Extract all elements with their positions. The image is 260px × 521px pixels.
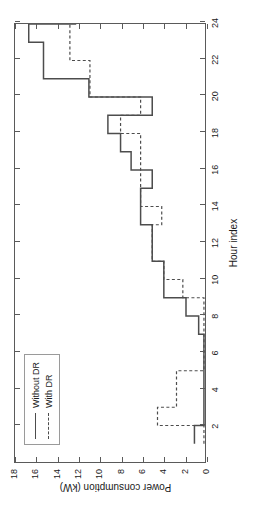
x-tick-label: 14: [210, 201, 220, 211]
y-tick-mark: [207, 24, 208, 29]
x-tick-label: 20: [210, 91, 220, 101]
x-tick-mark: [200, 204, 205, 205]
x-tick-mark: [200, 278, 205, 279]
legend-label-with-dr: With DR: [44, 375, 54, 409]
x-tick-label: 4: [210, 387, 220, 392]
legend-label-without-dr: Without DR: [31, 362, 41, 408]
x-tick-mark: [200, 388, 205, 389]
x-tick-mark: [200, 168, 205, 169]
x-tick-mark: [200, 131, 205, 132]
y-tick-mark: [186, 24, 187, 29]
y-tick-mark: [164, 457, 165, 462]
x-tick-mark: [15, 131, 20, 132]
y-tick-mark: [36, 24, 37, 29]
y-tick-mark: [79, 24, 80, 29]
y-tick-mark: [100, 457, 101, 462]
y-tick-mark: [122, 457, 123, 462]
legend-item-with-dr: With DR: [42, 362, 55, 439]
x-tick-mark: [200, 351, 205, 352]
x-tick-mark: [15, 424, 20, 425]
y-tick-mark: [122, 24, 123, 29]
series-line-with-dr: [70, 24, 204, 444]
x-tick-mark: [15, 278, 20, 279]
x-tick-mark: [200, 94, 205, 95]
chart-legend: Without DR With DR: [24, 354, 60, 445]
x-tick-mark: [200, 58, 205, 59]
x-tick-mark: [15, 21, 20, 22]
legend-swatch-dashed-icon: [48, 413, 49, 439]
y-tick-mark: [164, 24, 165, 29]
y-tick-mark: [15, 24, 16, 29]
x-tick-mark: [15, 58, 20, 59]
x-axis-title: Hour index: [228, 23, 239, 463]
figure-rotation-wrapper: 24681012141618202224024681012141618 Hour…: [0, 0, 260, 521]
x-tick-mark: [200, 424, 205, 425]
x-tick-label: 10: [210, 275, 220, 285]
x-tick-mark: [15, 204, 20, 205]
y-tick-mark: [15, 457, 16, 462]
x-tick-label: 8: [210, 314, 220, 319]
x-tick-label: 18: [210, 128, 220, 138]
x-tick-mark: [200, 314, 205, 315]
x-tick-mark: [15, 314, 20, 315]
y-tick-mark: [100, 24, 101, 29]
x-tick-mark: [15, 388, 20, 389]
y-tick-mark: [36, 457, 37, 462]
x-tick-mark: [15, 168, 20, 169]
legend-swatch-solid-icon: [35, 413, 36, 439]
y-tick-mark: [143, 457, 144, 462]
x-tick-mark: [200, 21, 205, 22]
y-tick-label: 18: [9, 469, 19, 491]
y-tick-mark: [143, 24, 144, 29]
x-tick-label: 24: [210, 18, 220, 28]
x-tick-label: 16: [210, 165, 220, 175]
legend-item-without-dr: Without DR: [29, 362, 42, 439]
chart-figure: 24681012141618202224024681012141618 Hour…: [0, 0, 260, 521]
y-axis-title: Power consumption (kW): [20, 482, 212, 493]
x-tick-mark: [15, 241, 20, 242]
x-tick-label: 12: [210, 238, 220, 248]
x-tick-label: 6: [210, 350, 220, 355]
x-tick-mark: [15, 94, 20, 95]
y-tick-mark: [58, 457, 59, 462]
x-tick-mark: [15, 351, 20, 352]
x-tick-label: 22: [210, 55, 220, 65]
y-tick-mark: [58, 24, 59, 29]
x-tick-mark: [200, 241, 205, 242]
y-tick-mark: [207, 457, 208, 462]
y-tick-mark: [186, 457, 187, 462]
x-tick-label: 2: [210, 424, 220, 429]
y-tick-mark: [79, 457, 80, 462]
